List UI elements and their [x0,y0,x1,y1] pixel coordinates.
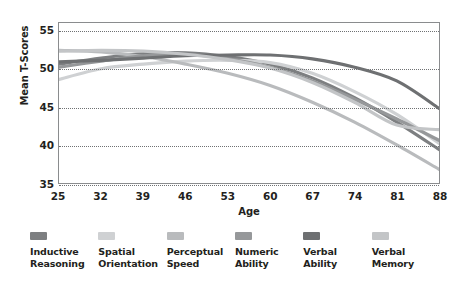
legend-label: NumericAbility [235,246,301,269]
x-tick-label-88: 88 [425,190,454,202]
legend-item-verbal-memory[interactable]: VerbalMemory [372,232,438,284]
x-tick-label-74: 74 [340,190,370,202]
legend-label: InductiveReasoning [30,246,96,269]
legend-label: SpatialOrientation [98,246,164,269]
legend-label-line1: Perceptual [167,246,233,258]
series-lines [59,23,439,183]
legend-label-line1: Spatial [98,246,164,258]
series-line-perceptual-speed [59,50,439,169]
chart-legend: InductiveReasoningSpatialOrientationPerc… [30,232,440,284]
x-axis-tick-labels: 25323946536067748188 [58,190,440,206]
gridline-y-40 [59,146,439,147]
legend-item-spatial-orientation[interactable]: SpatialOrientation [98,232,164,284]
y-tick-label-45: 45 [28,101,54,113]
legend-swatch-icon [167,232,184,240]
legend-swatch-icon [98,232,115,240]
x-tick-label-32: 32 [85,190,115,202]
legend-label-line1: Inductive [30,246,96,258]
legend-item-perceptual-speed[interactable]: PerceptualSpeed [167,232,233,284]
legend-label: VerbalAbility [303,246,369,269]
y-tick-label-50: 50 [28,62,54,74]
series-line-spatial-orientation [59,60,439,143]
legend-swatch-icon [30,232,47,240]
gridline-y-50 [59,69,439,70]
legend-swatch-icon [372,232,389,240]
legend-label-line2: Speed [167,258,233,270]
legend-item-inductive-reasoning[interactable]: InductiveReasoning [30,232,96,284]
legend-label-line2: Orientation [98,258,164,270]
y-tick-label-40: 40 [28,139,54,151]
x-tick-label-81: 81 [383,190,413,202]
x-tick-label-53: 53 [213,190,243,202]
x-tick-label-39: 39 [128,190,158,202]
x-tick-label-67: 67 [298,190,328,202]
x-tick-label-60: 60 [255,190,285,202]
legend-item-verbal-ability[interactable]: VerbalAbility [303,232,369,284]
legend-label-line1: Verbal [303,246,369,258]
x-tick-label-25: 25 [43,190,73,202]
gridline-y-55 [59,31,439,32]
legend-item-numeric-ability[interactable]: NumericAbility [235,232,301,284]
legend-label-line2: Ability [303,258,369,270]
legend-swatch-icon [235,232,252,240]
plot-area [58,22,440,184]
legend-label-line2: Ability [235,258,301,270]
legend-label-line2: Memory [372,258,438,270]
gridline-y-35 [59,185,439,186]
x-axis-title: Age [58,206,440,217]
legend-swatch-icon [303,232,320,240]
legend-label: VerbalMemory [372,246,438,269]
legend-label: PerceptualSpeed [167,246,233,269]
y-tick-label-55: 55 [28,24,54,36]
legend-label-line2: Reasoning [30,258,96,270]
gridline-y-45 [59,108,439,109]
series-line-verbal-memory [59,50,439,129]
y-tick-label-35: 35 [28,178,54,190]
legend-label-line1: Numeric [235,246,301,258]
legend-label-line1: Verbal [372,246,438,258]
line-chart-figure: Mean T-Scores 3540455055 253239465360677… [0,0,454,288]
x-tick-label-46: 46 [170,190,200,202]
